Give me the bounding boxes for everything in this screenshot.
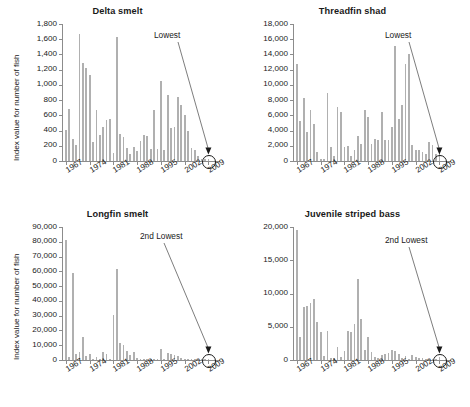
bar <box>72 139 74 161</box>
y-tick-label: 200 <box>43 140 57 149</box>
y-tick-mark <box>290 161 294 162</box>
plot-area: 05,00010,00015,00020,0001967197419811988… <box>293 227 443 360</box>
y-axis-line <box>62 227 63 361</box>
y-tick-mark <box>290 294 294 295</box>
bar <box>68 357 70 360</box>
bar <box>364 110 366 161</box>
bar <box>357 279 359 360</box>
y-tick-label: 6,000 <box>268 110 288 119</box>
bar <box>371 352 373 360</box>
bar <box>310 110 312 161</box>
y-tick-mark <box>59 115 63 116</box>
y-tick-mark <box>59 242 63 243</box>
y-tick-label: 0 <box>52 355 57 364</box>
bar <box>92 142 94 161</box>
bar <box>391 127 393 161</box>
y-tick-mark <box>59 257 63 258</box>
y-tick-mark <box>59 345 63 346</box>
bar <box>323 159 325 161</box>
annotation-arrow <box>293 227 463 370</box>
y-tick-mark <box>59 100 63 101</box>
bar <box>306 306 308 360</box>
bar <box>394 351 396 360</box>
panel-title: Threadfin shad <box>235 6 470 16</box>
bar <box>384 354 386 360</box>
bar <box>327 93 329 161</box>
bar <box>398 119 400 161</box>
y-tick-label: 40,000 <box>32 295 57 304</box>
y-tick-label: 20,000 <box>263 222 288 231</box>
y-tick-mark <box>290 100 294 101</box>
y-tick-label: 60,000 <box>32 266 57 275</box>
bar <box>146 136 148 161</box>
y-tick-mark <box>59 330 63 331</box>
bar <box>116 269 118 360</box>
fish-index-figure: Delta smeltIndex value for number of fis… <box>0 0 470 407</box>
bar <box>320 332 322 360</box>
bar <box>296 230 298 360</box>
bar <box>153 359 155 360</box>
y-tick-mark <box>290 360 294 361</box>
y-tick-mark <box>59 286 63 287</box>
bar <box>303 98 305 161</box>
bar <box>153 110 155 161</box>
bar <box>140 359 142 360</box>
bar <box>371 144 373 161</box>
y-tick-label: 1,400 <box>37 49 57 58</box>
bar <box>405 64 407 161</box>
y-tick-label: 4,000 <box>268 125 288 134</box>
bar <box>310 303 312 360</box>
y-tick-mark <box>290 54 294 55</box>
panel-title: Juvenile striped bass <box>235 209 470 219</box>
bar <box>65 240 67 360</box>
bar <box>65 130 67 161</box>
bar <box>388 140 390 161</box>
bar <box>160 349 162 360</box>
y-tick-label: 90,000 <box>32 222 57 231</box>
bar <box>113 315 115 360</box>
y-tick-mark <box>290 70 294 71</box>
bar <box>391 350 393 360</box>
y-axis-line <box>293 227 294 361</box>
bar <box>306 132 308 161</box>
bar <box>401 105 403 161</box>
bar <box>170 128 172 161</box>
bar <box>394 46 396 161</box>
bar <box>340 112 342 161</box>
chart-panel-4: Juvenile striped bass05,00010,00015,0002… <box>235 205 470 407</box>
y-tick-mark <box>290 260 294 261</box>
bar <box>129 154 131 161</box>
bar <box>337 107 339 161</box>
bar <box>337 347 339 360</box>
bar <box>109 119 111 161</box>
y-tick-label: 80,000 <box>32 236 57 245</box>
y-tick-mark <box>290 146 294 147</box>
bar <box>119 134 121 161</box>
bar <box>184 115 186 161</box>
bar <box>350 332 352 360</box>
y-tick-label: 70,000 <box>32 251 57 260</box>
bar <box>116 37 118 161</box>
y-tick-mark <box>290 227 294 228</box>
y-tick-label: 1,000 <box>37 79 57 88</box>
bar <box>344 147 346 161</box>
bar <box>102 127 104 161</box>
bar <box>96 110 98 161</box>
y-tick-label: 0 <box>283 355 288 364</box>
bar <box>364 350 366 360</box>
bar <box>157 149 159 161</box>
bar <box>106 120 108 161</box>
bar <box>367 337 369 360</box>
bar <box>316 152 318 161</box>
bar <box>68 109 70 161</box>
bar <box>180 105 182 161</box>
bar <box>347 146 349 161</box>
y-tick-label: 600 <box>43 110 57 119</box>
bar <box>313 124 315 161</box>
panel-title: Delta smelt <box>0 6 235 16</box>
bar <box>388 353 390 360</box>
y-tick-label: 10,000 <box>32 340 57 349</box>
bar <box>157 359 159 360</box>
bar <box>85 68 87 161</box>
bar <box>384 140 386 161</box>
